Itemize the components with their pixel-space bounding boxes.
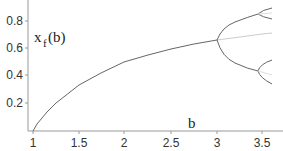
period-2-lower-branch (217, 40, 258, 71)
x-tick-label: 2 (121, 136, 128, 150)
y-tick-label: 0.8 (6, 14, 23, 28)
x-tick-label: 3.5 (254, 136, 271, 150)
y-tick-label: 0.2 (6, 96, 23, 110)
y-axis-label-arg: (b) (48, 29, 66, 46)
period-2-upper-branch (217, 14, 258, 40)
period-2-unstable-continuations (258, 13, 272, 75)
x-axis-label: b (188, 115, 196, 131)
x-ticks: 1 1.5 2 2.5 3 3.5 (30, 131, 271, 150)
y-axis-label-sub: f (43, 37, 47, 49)
unstable-fixed-point-curve (217, 33, 272, 40)
y-tick-label: 0.4 (6, 68, 23, 82)
y-ticks: 0.2 0.4 0.6 0.8 (6, 14, 28, 110)
x-tick-label: 1 (30, 136, 37, 150)
y-axis-label: x f (b) (34, 29, 66, 49)
y-tick-label: 0.6 (6, 41, 23, 55)
x-tick-label: 3 (214, 136, 221, 150)
y-axis-label-main: x (34, 29, 42, 45)
bifurcation-chart: 0.2 0.4 0.6 0.8 1 1.5 2 2.5 3 3.5 b x f … (0, 0, 283, 151)
x-tick-label: 2.5 (163, 136, 180, 150)
x-tick-label: 1.5 (71, 136, 88, 150)
